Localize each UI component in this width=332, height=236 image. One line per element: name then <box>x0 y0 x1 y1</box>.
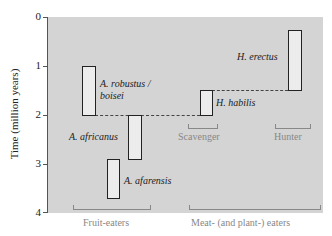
y-tick-label: 2 <box>30 109 41 120</box>
label-afarensis: A. afarensis <box>124 175 171 186</box>
group-label-hunter: Hunter <box>274 131 302 142</box>
y-tick-label: 3 <box>30 158 41 169</box>
y-tick <box>43 17 48 18</box>
bracket-hunter <box>275 124 311 129</box>
label-habilis: H. habilis <box>216 97 255 108</box>
y-tick-label: 0 <box>30 11 41 22</box>
label-africanus: A. africanus <box>69 131 118 142</box>
bracket-fruit-eaters <box>73 205 151 210</box>
bar-afarensis <box>107 159 120 199</box>
bracket-meat-eaters <box>189 205 321 210</box>
y-tick <box>43 212 48 213</box>
bracket-scavenger <box>188 124 218 129</box>
y-axis-label: Time (million years) <box>8 54 20 174</box>
bar-africanus <box>128 115 142 160</box>
group-label-scavenger: Scavenger <box>178 131 220 142</box>
group-label-fruit-eaters: Fruit-eaters <box>83 217 129 228</box>
y-tick <box>43 66 48 67</box>
y-tick-label: 4 <box>30 207 41 218</box>
label-boisei: boisei <box>100 90 124 101</box>
bar-robustus-boisei <box>82 66 96 116</box>
y-tick <box>43 115 48 116</box>
y-tick-label: 1 <box>30 60 41 71</box>
label-robustus: A. robustus / <box>100 78 150 89</box>
y-tick <box>43 164 48 165</box>
connector-robustus-habilis <box>95 115 200 116</box>
bar-erectus <box>288 30 302 91</box>
bar-habilis <box>200 90 213 116</box>
connector-habilis-erectus <box>212 90 288 91</box>
group-label-meat-eaters: Meat- (and plant-) eaters <box>191 217 290 228</box>
label-erectus: H. erectus <box>237 51 278 62</box>
